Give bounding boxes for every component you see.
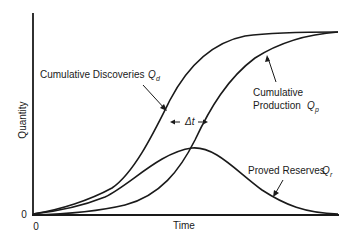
- delta-t-arrowhead-left: [170, 120, 175, 125]
- y-zero-tick: 0: [21, 209, 27, 220]
- reserves-label: Proved Reserves: [248, 165, 325, 176]
- production-arrowhead: [265, 55, 270, 62]
- x-zero-tick: 0: [33, 221, 39, 232]
- production-label-line2: Production: [253, 100, 301, 111]
- discoveries-subscript: d: [156, 75, 161, 82]
- y-axis-label: Quantity: [17, 101, 28, 138]
- delta-t-label: Δt: [184, 116, 196, 127]
- chart: Quantity Time 0 0 Cumulative Discoveries…: [0, 0, 355, 237]
- discoveries-symbol: Q: [148, 69, 156, 80]
- discoveries-arrow: [143, 85, 165, 109]
- production-arrow: [268, 58, 276, 82]
- x-axis-label: Time: [173, 220, 195, 231]
- production-symbol: Q: [307, 100, 315, 111]
- discoveries-label: Cumulative Discoveries: [40, 69, 144, 80]
- reserves-subscript: r: [330, 171, 333, 178]
- production-subscript: p: [314, 106, 319, 114]
- reserves-symbol: Q: [322, 165, 330, 176]
- reserves-arrowhead: [273, 190, 279, 197]
- production-label-line1: Cumulative: [253, 87, 303, 98]
